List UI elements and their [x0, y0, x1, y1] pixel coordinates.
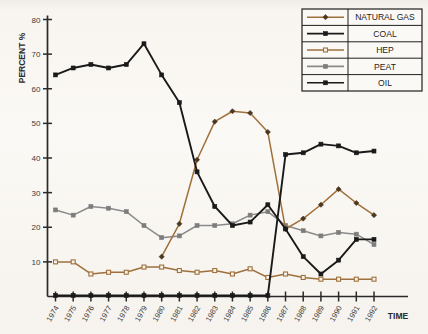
series-coal	[54, 142, 377, 297]
x-tick-label: 1987	[275, 304, 291, 323]
data-point-marker	[372, 243, 376, 247]
y-tick-label: 50	[32, 119, 41, 128]
x-tick-label: 1976	[80, 304, 96, 323]
data-point-marker	[319, 234, 323, 238]
data-point-marker	[195, 270, 199, 274]
x-tick-label: 1981	[168, 304, 184, 323]
x-tick-label: 1985	[239, 304, 255, 323]
data-point-marker	[324, 81, 328, 85]
y-tick-label: 70	[32, 50, 41, 59]
data-point-marker	[213, 269, 217, 273]
x-tick-label: 1992	[363, 304, 379, 323]
data-point-marker	[266, 210, 270, 214]
data-point-marker	[124, 63, 128, 67]
x-tick-label: 1978	[115, 304, 131, 323]
x-tick-label: 1975	[62, 304, 78, 323]
series-natural-gas	[159, 109, 377, 260]
data-point-marker	[177, 234, 181, 238]
data-point-marker	[160, 236, 164, 240]
x-tick-label: 1986	[257, 304, 273, 323]
chart-page: 8070605040302010197419751976197719781979…	[0, 0, 428, 334]
data-point-marker	[177, 293, 181, 297]
data-point-marker	[89, 63, 93, 67]
y-tick-label: 60	[32, 85, 41, 94]
data-point-marker	[107, 270, 111, 274]
data-point-marker	[54, 73, 58, 77]
data-point-marker	[248, 213, 252, 217]
y-tick-label: 20	[32, 223, 41, 232]
data-point-marker	[89, 293, 93, 297]
x-tick-label: 1988	[292, 304, 308, 323]
data-point-marker	[354, 277, 358, 281]
x-tick-label: 1983	[204, 304, 220, 323]
data-point-marker	[284, 153, 288, 157]
data-point-marker	[230, 272, 234, 276]
data-point-marker	[142, 265, 146, 269]
data-point-marker	[354, 237, 358, 241]
data-point-marker	[337, 230, 341, 234]
data-point-marker	[213, 224, 217, 228]
data-point-marker	[354, 151, 358, 155]
data-point-marker	[54, 208, 58, 212]
data-point-marker	[195, 293, 199, 297]
data-point-marker	[324, 64, 328, 68]
data-point-marker	[301, 255, 305, 259]
x-tick-label: 1974	[44, 304, 60, 323]
data-point-marker	[177, 101, 181, 105]
data-point-marker	[160, 293, 164, 297]
data-point-marker	[284, 227, 288, 231]
x-tick-label: 1990	[328, 304, 344, 323]
data-point-marker	[71, 260, 75, 264]
data-point-marker	[124, 293, 128, 297]
data-point-marker	[301, 275, 305, 279]
data-point-marker	[248, 293, 252, 297]
data-point-marker	[54, 260, 58, 264]
data-point-marker	[230, 224, 234, 228]
data-point-marker	[301, 151, 305, 155]
y-tick-label: 30	[32, 189, 41, 198]
data-point-marker	[213, 293, 217, 297]
x-tick-label: 1984	[221, 304, 237, 323]
legend-group[interactable]: NATURAL GASCOALHEPPEATOIL	[302, 9, 422, 91]
data-point-marker	[89, 272, 93, 276]
data-point-marker	[142, 42, 146, 46]
data-point-marker	[213, 204, 217, 208]
data-point-marker	[107, 293, 111, 297]
legend-item-label: OIL	[378, 78, 392, 88]
legend-item-label: PEAT	[374, 62, 397, 72]
x-tick-label: 1979	[133, 304, 149, 323]
data-point-marker	[71, 293, 75, 297]
data-point-marker	[324, 32, 328, 36]
y-tick-label: 80	[32, 16, 41, 25]
data-point-marker	[71, 66, 75, 70]
data-point-marker	[195, 170, 199, 174]
data-point-marker	[372, 277, 376, 281]
x-tick-label: 1977	[98, 304, 114, 323]
data-point-marker	[248, 267, 252, 271]
data-point-marker	[319, 277, 323, 281]
data-point-marker	[248, 220, 252, 224]
x-tick-label: 1982	[186, 304, 202, 323]
data-point-marker	[160, 265, 164, 269]
x-tick-label: 1989	[310, 304, 326, 323]
data-point-marker	[319, 142, 323, 146]
data-point-marker	[71, 213, 75, 217]
y-tick-label: 40	[32, 154, 41, 163]
series-peat	[54, 204, 377, 246]
data-point-marker	[107, 66, 111, 70]
data-point-marker	[324, 48, 328, 52]
data-point-marker	[124, 270, 128, 274]
data-point-marker	[142, 293, 146, 297]
data-point-marker	[284, 272, 288, 276]
data-point-marker	[195, 224, 199, 228]
data-point-marker	[142, 224, 146, 228]
data-point-marker	[372, 149, 376, 153]
data-point-marker	[266, 203, 270, 207]
data-point-marker	[372, 237, 376, 241]
legend-item-label: NATURAL GAS	[355, 12, 415, 22]
data-point-marker	[301, 229, 305, 233]
series-hep	[54, 260, 377, 281]
y-axis-title: PERCENT %	[17, 32, 27, 83]
data-point-marker	[354, 232, 358, 236]
data-point-marker	[266, 293, 270, 297]
